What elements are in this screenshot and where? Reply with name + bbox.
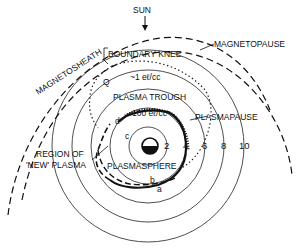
point-d-label: d bbox=[115, 116, 120, 126]
density-leader-line bbox=[120, 112, 132, 122]
sun-arrow-head bbox=[142, 25, 148, 31]
plasmapause-label: PLASMAPAUSE bbox=[195, 112, 258, 122]
magnetopause-leader-line bbox=[200, 44, 214, 50]
radial-tick-10: 10 bbox=[239, 140, 250, 151]
point-c-label: c bbox=[125, 131, 130, 141]
radial-tick-6: 6 bbox=[202, 140, 207, 151]
point-a-label: a bbox=[157, 184, 162, 194]
plasmasphere-diagram: SUN MAGNETOSHEATH MAGNETOPAUSE BOUNDARY … bbox=[0, 0, 296, 251]
plasma-trough-label: PLASMA TROUGH bbox=[113, 92, 186, 102]
point-b-label: b bbox=[150, 175, 155, 185]
magnetosheath-label: MAGNETOSHEATH bbox=[34, 47, 104, 97]
region-label-line1: REGION OF bbox=[36, 149, 84, 159]
plasmasphere-density-label: 100 eℓ/cc bbox=[132, 108, 168, 118]
radial-tick-2: 2 bbox=[164, 140, 169, 151]
region-leader-line bbox=[92, 146, 108, 160]
radial-tick-4: 4 bbox=[183, 140, 188, 151]
earth-icon bbox=[142, 138, 158, 154]
point-q-label: Q bbox=[103, 77, 110, 87]
radial-tick-8: 8 bbox=[221, 140, 226, 151]
plasmasphere-label: PLASMASPHERE bbox=[107, 161, 177, 171]
sun-label: SUN bbox=[133, 5, 151, 15]
magnetopause-label: MAGNETOPAUSE bbox=[214, 39, 285, 49]
boundary-knee-label: BOUNDARY KNEE bbox=[108, 49, 182, 59]
region-label-line2: 'NEW' PLASMA bbox=[26, 160, 86, 170]
trough-boundary-crosses bbox=[89, 66, 112, 128]
trough-density-label: ~1 eℓ/cc bbox=[130, 72, 161, 82]
